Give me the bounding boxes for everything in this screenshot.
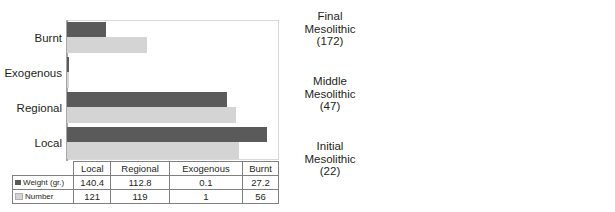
table-cell-weight-regional: 112.8 — [111, 176, 169, 190]
table-header-row: Local Regional Exogenous Burnt — [13, 162, 279, 176]
left-bar-exogenous-weight — [67, 57, 69, 72]
right-category-final-line1: Final — [300, 10, 360, 23]
left-bar-burnt-weight — [67, 22, 106, 37]
left-bar-regional-number — [67, 107, 236, 123]
left-chart-panel: Burnt Exogenous Regional Local Local Reg… — [0, 0, 300, 212]
right-category-initial-line1: Initial — [300, 140, 360, 153]
left-category-label-regional: Regional — [0, 102, 62, 114]
left-bar-burnt-number — [67, 37, 147, 53]
left-category-label-local: Local — [0, 137, 62, 149]
right-category-initial-line3: (22) — [300, 165, 360, 178]
table-cell-number-exogenous: 1 — [169, 190, 242, 204]
table-row: Number 121 119 1 56 — [13, 190, 279, 204]
table-header-burnt: Burnt — [243, 162, 279, 176]
right-category-final-line3: (172) — [300, 35, 360, 48]
left-bar-exogenous-number — [67, 72, 69, 88]
right-category-middle-line2: Mesolithic — [300, 88, 360, 101]
right-category-final-line2: Mesolithic — [300, 23, 360, 36]
table-row: Weight (gr.) 140.4 112.8 0.1 27.2 — [13, 176, 279, 190]
table-rowhead-weight: Weight (gr.) — [13, 176, 74, 190]
right-category-label-middle: Middle Mesolithic (47) — [300, 75, 360, 113]
left-chart-data-table: Local Regional Exogenous Burnt Weight (g… — [12, 161, 279, 204]
table-cell-number-burnt: 56 — [243, 190, 279, 204]
dark-swatch-icon — [15, 180, 21, 185]
light-swatch-icon — [15, 193, 23, 200]
table-header-exogenous: Exogenous — [169, 162, 242, 176]
left-bar-local-number — [67, 142, 239, 159]
left-bar-local-weight — [67, 127, 267, 142]
left-category-label-burnt: Burnt — [0, 32, 62, 44]
left-bar-regional-weight — [67, 92, 227, 107]
table-cell-weight-local: 140.4 — [74, 176, 111, 190]
table-rowhead-weight-label: Weight (gr.) — [23, 178, 64, 187]
table-cell-weight-exogenous: 0.1 — [169, 176, 242, 190]
table-corner-cell — [13, 162, 74, 176]
table-rowhead-number: Number — [13, 190, 74, 204]
table-cell-weight-burnt: 27.2 — [243, 176, 279, 190]
right-category-middle-line1: Middle — [300, 75, 360, 88]
figure-two-bar-charts: Burnt Exogenous Regional Local Local Reg… — [0, 0, 615, 212]
right-category-initial-line2: Mesolithic — [300, 153, 360, 166]
right-category-middle-line3: (47) — [300, 100, 360, 113]
table-header-regional: Regional — [111, 162, 169, 176]
right-chart-panel: Final Mesolithic (172) Middle Mesolithic… — [300, 0, 615, 212]
right-category-label-initial: Initial Mesolithic (22) — [300, 140, 360, 178]
table-rowhead-number-label: Number — [25, 192, 53, 201]
right-category-label-final: Final Mesolithic (172) — [300, 10, 360, 48]
table-cell-number-local: 121 — [74, 190, 111, 204]
left-category-label-exogenous: Exogenous — [0, 67, 62, 79]
table-cell-number-regional: 119 — [111, 190, 169, 204]
table-header-local: Local — [74, 162, 111, 176]
